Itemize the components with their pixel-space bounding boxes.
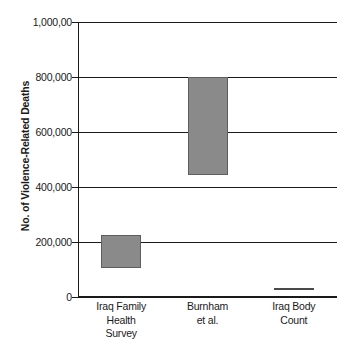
bar — [188, 77, 228, 175]
plot-area — [78, 22, 337, 297]
y-axis-tick-label: 600,000 — [10, 127, 72, 138]
category-label-line: et al. — [164, 314, 250, 328]
category-label-line: Iraq Body — [251, 300, 337, 314]
category-label: Burnhamet al. — [164, 300, 250, 327]
category-label-line: Health — [78, 314, 164, 328]
x-axis-category-labels: Iraq FamilyHealthSurveyBurnhamet al.Iraq… — [78, 300, 337, 348]
y-axis-tick-label: 400,000 — [10, 182, 72, 193]
chart-figure: No. of Violence-Related Deaths 0200,0004… — [0, 0, 348, 348]
gridline — [78, 187, 337, 188]
bar — [101, 235, 141, 268]
y-axis-tick — [72, 297, 78, 298]
category-label: Iraq FamilyHealthSurvey — [78, 300, 164, 341]
gridline — [78, 297, 337, 298]
category-label-line: Iraq Family — [78, 300, 164, 314]
y-axis-tick — [72, 187, 78, 188]
category-label-line: Count — [251, 314, 337, 328]
category-label-line: Burnham — [164, 300, 250, 314]
y-axis-tick — [72, 22, 78, 23]
y-axis-tick-label: 1,000,00 — [10, 17, 72, 28]
category-label-line: Survey — [78, 327, 164, 341]
y-axis-tick — [72, 77, 78, 78]
y-axis-tick-label: 200,000 — [10, 237, 72, 248]
category-label: Iraq BodyCount — [251, 300, 337, 327]
gridline — [78, 22, 337, 23]
y-axis-line — [78, 22, 79, 297]
bar — [274, 288, 314, 291]
y-axis-tick — [72, 242, 78, 243]
y-axis-tick-labels: 0200,000400,000600,000800,0001,000,00 — [6, 0, 72, 348]
y-axis-tick-label: 0 — [10, 292, 72, 303]
y-axis-tick — [72, 132, 78, 133]
y-axis-tick-label: 800,000 — [10, 72, 72, 83]
